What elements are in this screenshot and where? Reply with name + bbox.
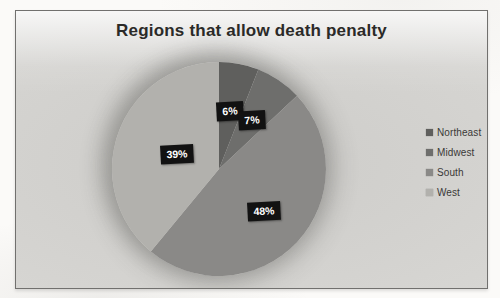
legend-item-south: South	[426, 167, 481, 178]
legend-item-northeast: Northeast	[426, 127, 481, 138]
photo-background: Regions that allow death penalty Northea…	[0, 0, 500, 298]
legend-swatch-icon	[426, 149, 433, 156]
legend-label: Northeast	[437, 127, 481, 138]
legend-item-west: West	[426, 187, 481, 198]
legend-item-midwest: Midwest	[426, 147, 481, 158]
data-label-south: 48%	[247, 201, 281, 221]
data-label-midwest: 7%	[238, 110, 266, 130]
legend: Northeast Midwest South West	[426, 127, 481, 198]
pie-chart	[16, 11, 487, 288]
legend-label: South	[437, 167, 464, 178]
legend-label: Midwest	[437, 147, 474, 158]
chart-area: Regions that allow death penalty Northea…	[15, 10, 488, 289]
data-label-west: 39%	[160, 144, 194, 164]
legend-swatch-icon	[426, 189, 433, 196]
legend-swatch-icon	[426, 169, 433, 176]
legend-swatch-icon	[426, 129, 433, 136]
legend-label: West	[437, 187, 460, 198]
